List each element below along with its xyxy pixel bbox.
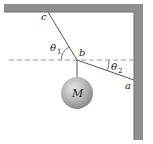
label-c: c bbox=[41, 11, 47, 22]
hanging-mass-diagram: c b a M θ 1 θ 2 bbox=[0, 0, 153, 144]
label-mass: M bbox=[71, 87, 84, 100]
label-b: b bbox=[79, 47, 85, 58]
theta1-arc bbox=[61, 47, 69, 60]
label-theta2: θ bbox=[111, 61, 117, 72]
label-a: a bbox=[125, 80, 131, 91]
string-ba bbox=[77, 60, 134, 80]
diagram-canvas: c b a M θ 1 θ 2 bbox=[0, 0, 153, 144]
label-theta1: θ bbox=[50, 42, 56, 53]
theta2-arc bbox=[108, 60, 110, 71]
label-theta2-sub: 2 bbox=[118, 67, 122, 75]
right-wall bbox=[134, 4, 143, 140]
label-theta1-sub: 1 bbox=[57, 48, 61, 56]
ceiling bbox=[4, 4, 143, 12]
